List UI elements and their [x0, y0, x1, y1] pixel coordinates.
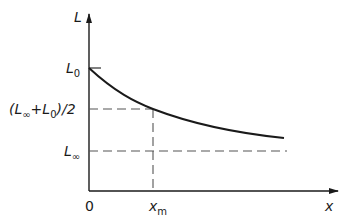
origin-label: 0 — [85, 198, 94, 214]
x-axis-label: x — [324, 198, 334, 214]
decay-diagram: L x 0 L0 (L∞+L0)/2 L∞ xm — [0, 0, 349, 223]
l-infinity-label: L∞ — [64, 143, 80, 162]
l0-label: L0 — [66, 60, 80, 79]
decay-curve — [89, 68, 284, 138]
half-level-label: (L∞+L0)/2 — [9, 101, 76, 120]
xm-label: xm — [148, 198, 167, 217]
y-axis-label: L — [74, 9, 82, 25]
